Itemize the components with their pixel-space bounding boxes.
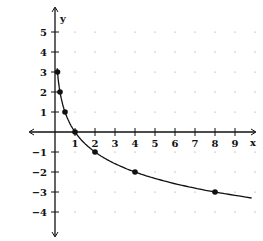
x-tick-label: 5	[152, 138, 159, 149]
grid-dot	[114, 51, 115, 52]
grid-dot	[114, 211, 115, 212]
grid-dot	[174, 71, 175, 72]
grid-dot	[134, 31, 135, 32]
grid-dot	[154, 171, 155, 172]
grid-dot	[134, 151, 135, 152]
x-tick-label: 3	[112, 138, 119, 149]
grid-dot	[174, 191, 175, 192]
grid-dot	[254, 31, 255, 32]
grid-dot	[74, 91, 75, 92]
grid-dot	[254, 171, 255, 172]
grid-dot	[174, 211, 175, 212]
grid-dot	[154, 71, 155, 72]
grid-dot	[254, 91, 255, 92]
grid-dot	[74, 151, 75, 152]
grid-dot	[74, 31, 75, 32]
log-graph: 12345678954321−1−2−3−4xy	[0, 0, 263, 241]
grid-dot	[154, 111, 155, 112]
grid-dot	[214, 91, 215, 92]
grid-dot	[114, 91, 115, 92]
y-tick-label: 5	[40, 27, 47, 38]
grid-dot	[214, 31, 215, 32]
grid-dot	[94, 91, 95, 92]
grid-dot	[174, 91, 175, 92]
grid-dot	[134, 51, 135, 52]
y-tick-label: −2	[32, 167, 47, 178]
x-tick-label: 2	[92, 138, 99, 149]
grid-dot	[234, 31, 235, 32]
grid-dot	[254, 191, 255, 192]
grid-dot	[94, 171, 95, 172]
grid-dot	[134, 211, 135, 212]
grid-dot	[154, 51, 155, 52]
grid-dot	[194, 191, 195, 192]
grid-dot	[214, 211, 215, 212]
grid-dot	[194, 51, 195, 52]
grid-dot	[254, 71, 255, 72]
grid-dot	[154, 31, 155, 32]
grid-dot	[194, 31, 195, 32]
grid-dot	[134, 91, 135, 92]
grid-dot	[114, 111, 115, 112]
grid-dot	[254, 51, 255, 52]
x-axis-label: x	[250, 137, 257, 148]
grid-dot	[254, 151, 255, 152]
grid-dot	[94, 191, 95, 192]
data-point	[62, 109, 68, 115]
grid-dot	[74, 51, 75, 52]
grid-dot	[194, 151, 195, 152]
grid-dot	[234, 211, 235, 212]
curve	[57, 68, 251, 198]
grid-dot	[134, 191, 135, 192]
grid-dot	[74, 211, 75, 212]
x-tick-label: 6	[172, 138, 179, 149]
grid-dot	[94, 31, 95, 32]
grid-dot	[194, 111, 195, 112]
grid-dot	[234, 151, 235, 152]
data-point	[72, 129, 78, 135]
grid-dot	[94, 211, 95, 212]
grid-dot	[194, 71, 195, 72]
grid-dot	[154, 191, 155, 192]
x-tick-label: 7	[192, 138, 199, 149]
grid-dot	[254, 111, 255, 112]
data-point	[212, 189, 218, 195]
grid-dot	[134, 71, 135, 72]
grid-dot	[234, 91, 235, 92]
x-tick-label: 9	[232, 138, 239, 149]
grid-dot	[234, 111, 235, 112]
grid-dot	[74, 171, 75, 172]
y-tick-label: −3	[32, 187, 47, 198]
grid-dot	[114, 171, 115, 172]
y-tick-label: −4	[32, 207, 47, 218]
grid-dot	[214, 51, 215, 52]
y-tick-label: 2	[40, 87, 47, 98]
grid-dot	[94, 71, 95, 72]
grid-dot	[154, 151, 155, 152]
grid-dot	[174, 51, 175, 52]
grid-dot	[74, 191, 75, 192]
grid-dot	[234, 51, 235, 52]
x-tick-label: 1	[72, 138, 79, 149]
grid-dot	[114, 71, 115, 72]
y-tick-label: 3	[40, 67, 47, 78]
x-tick-label: 8	[212, 138, 219, 149]
data-point	[57, 89, 63, 95]
grid-dot	[74, 111, 75, 112]
grid-dot	[134, 111, 135, 112]
data-point	[132, 169, 138, 175]
grid-dot	[194, 211, 195, 212]
grid-dot	[214, 151, 215, 152]
grid-dot	[174, 111, 175, 112]
grid-dot	[214, 171, 215, 172]
data-point	[92, 149, 98, 155]
grid-dot	[114, 31, 115, 32]
grid-dot	[174, 171, 175, 172]
grid-dot	[94, 51, 95, 52]
grid-dot	[174, 151, 175, 152]
grid-dot	[254, 211, 255, 212]
y-axis-label: y	[59, 13, 67, 24]
y-tick-label: −1	[32, 147, 47, 158]
grid-dot	[214, 71, 215, 72]
grid-dot	[234, 191, 235, 192]
